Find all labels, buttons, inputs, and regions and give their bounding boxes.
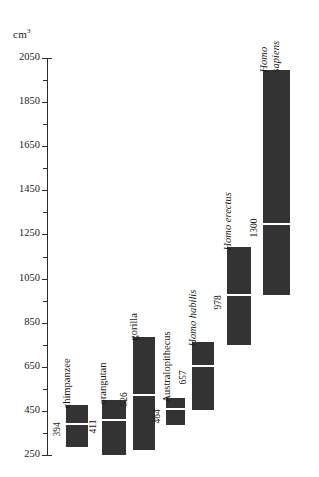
y-tick-label: 1650 (2, 140, 40, 151)
range-bar (227, 247, 251, 345)
mean-value-label: 411 (89, 420, 99, 434)
range-bar (102, 400, 126, 455)
y-tick-minor (43, 124, 48, 125)
y-tick-label: 250 (2, 449, 40, 460)
range-bar (192, 342, 214, 410)
mean-value-label: 464 (153, 409, 163, 423)
y-axis-unit-exponent: 3 (27, 27, 31, 35)
species-label: orangutan (98, 363, 109, 405)
brain-volume-chart: cm3 250450650850105012501450165018502050… (0, 0, 319, 477)
y-tick-major (42, 146, 48, 147)
y-tick-major (42, 102, 48, 103)
mean-value-label: 394 (53, 422, 63, 436)
y-tick-label: 1250 (2, 228, 40, 239)
y-tick-major (42, 279, 48, 280)
species-label-line2: sapiens (271, 41, 282, 73)
mean-marker-line (102, 419, 126, 421)
y-tick-label: 2050 (2, 52, 40, 63)
y-tick-label-wrap: 1450 (0, 190, 40, 191)
y-tick-label-wrap: 2050 (0, 58, 40, 59)
mean-value-label: 1300 (250, 219, 260, 238)
y-tick-minor (43, 212, 48, 213)
species-label: Homo (259, 47, 270, 73)
y-tick-label: 1850 (2, 96, 40, 107)
species-label: Homo habilis (188, 290, 199, 347)
y-tick-label-wrap: 1250 (0, 234, 40, 235)
y-tick-label: 1050 (2, 273, 40, 284)
mean-marker-line (227, 294, 251, 296)
y-tick-label: 1450 (2, 184, 40, 195)
mean-marker-line (263, 223, 290, 225)
mean-value-label: 657 (179, 370, 189, 384)
mean-value-label: 978 (214, 295, 224, 309)
y-tick-minor (43, 433, 48, 434)
y-tick-label-wrap: 850 (0, 323, 40, 324)
y-tick-minor (43, 345, 48, 346)
species-label: gorilla (129, 313, 140, 340)
mean-marker-line (166, 408, 185, 410)
range-bar (66, 405, 88, 447)
y-tick-minor (43, 389, 48, 390)
y-tick-major (42, 234, 48, 235)
y-tick-label-wrap: 650 (0, 367, 40, 368)
y-tick-major (42, 190, 48, 191)
y-axis-unit-text: cm (13, 28, 27, 40)
y-tick-major (42, 367, 48, 368)
mean-marker-line (192, 365, 214, 367)
mean-value-label: 526 (120, 392, 130, 406)
mean-marker-line (133, 394, 155, 396)
species-label: chimpanzee (62, 358, 73, 408)
species-label: Homo erectus (223, 192, 234, 250)
y-tick-major (42, 411, 48, 412)
range-bar (263, 70, 290, 295)
y-tick-label: 650 (2, 361, 40, 372)
mean-marker-line (66, 423, 88, 425)
y-tick-minor (43, 80, 48, 81)
y-tick-label: 450 (2, 405, 40, 416)
y-tick-label: 850 (2, 317, 40, 328)
y-tick-minor (43, 301, 48, 302)
y-axis-unit-label: cm3 (13, 29, 31, 40)
species-label: Australopithecus (162, 331, 173, 402)
y-tick-label-wrap: 1650 (0, 146, 40, 147)
y-tick-label-wrap: 1050 (0, 279, 40, 280)
y-tick-label-wrap: 1850 (0, 102, 40, 103)
y-tick-label-wrap: 250 (0, 455, 40, 456)
y-tick-label-wrap: 450 (0, 411, 40, 412)
y-tick-major (42, 323, 48, 324)
y-tick-minor (43, 168, 48, 169)
y-tick-minor (43, 257, 48, 258)
y-tick-major (42, 455, 48, 456)
y-tick-major (42, 58, 48, 59)
